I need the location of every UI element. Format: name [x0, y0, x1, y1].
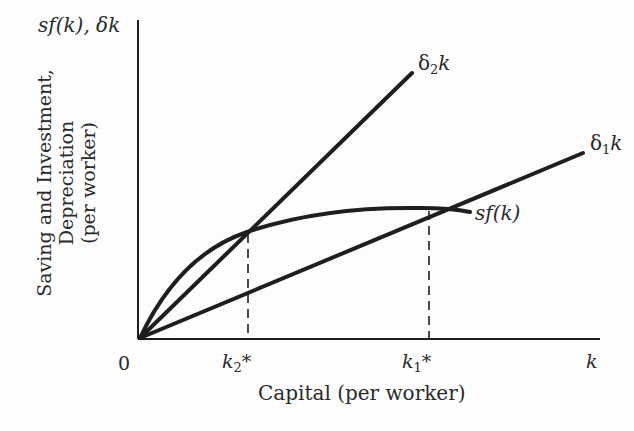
k2-star-label: k2*	[222, 350, 251, 375]
delta1-k: k	[610, 131, 622, 155]
y-axis-title: Saving and Investment, Depreciation (per…	[33, 69, 99, 297]
y-axis-title-line2: Depreciation	[55, 69, 77, 297]
delta2k-label: δ2k	[418, 51, 450, 77]
k1-base: k	[402, 350, 414, 372]
y-axis-top-label: sf(k), δk	[38, 13, 120, 37]
delta2k-line	[140, 73, 412, 338]
sfk-label: sf(k)	[475, 201, 520, 225]
k2-star: *	[242, 350, 252, 372]
x-axis-end-label: k	[586, 350, 598, 372]
delta2-k: k	[438, 51, 450, 75]
x-axis-title: Capital (per worker)	[258, 381, 466, 405]
k1-star: *	[422, 350, 432, 372]
y-axis-title-line1: Saving and Investment,	[33, 69, 55, 297]
delta1k-label: δ1k	[590, 131, 622, 157]
y-top-text: sf(k), δk	[38, 13, 120, 37]
origin-label: 0	[118, 352, 130, 374]
k2-base: k	[222, 350, 234, 372]
k1-star-label: k1*	[402, 350, 431, 375]
solow-steady-state-chart: sf(k), δk Saving and Investment, Depreci…	[0, 0, 634, 431]
k1-subscript: 1	[414, 360, 422, 375]
delta2-symbol: δ	[418, 51, 430, 75]
y-axis-title-line3: (per worker)	[77, 69, 99, 297]
delta1-symbol: δ	[590, 131, 602, 155]
k2-subscript: 2	[234, 360, 242, 375]
delta1k-line	[140, 153, 583, 338]
